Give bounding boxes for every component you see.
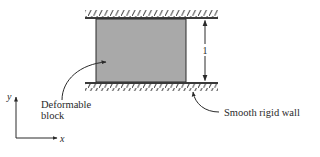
deformable-block [96,19,186,82]
wall-leader-line [193,92,219,112]
bottom-rigid-wall [85,82,218,91]
dimension-label: 1 [203,45,208,56]
bottom-wall-hatching [85,84,218,91]
bottom-wall-plate [85,82,218,84]
wall-label: Smooth rigid wall [224,107,300,118]
x-axis-label: x [59,133,65,144]
block-label-line1: Deformable [41,99,91,110]
deformable-block-diagram: 1 Deformable block Smooth rigid wall y x [0,0,320,157]
y-axis-label: y [6,91,12,102]
block-label-line2: block [41,110,65,121]
top-wall-hatching [85,10,218,17]
height-dimension: 1 [201,21,209,81]
top-rigid-wall [85,10,218,19]
